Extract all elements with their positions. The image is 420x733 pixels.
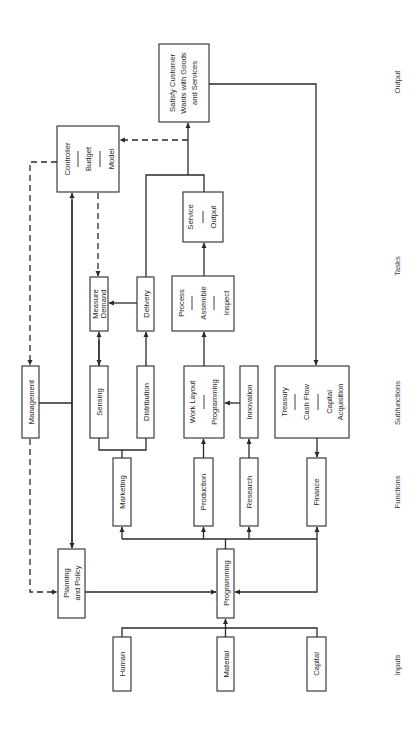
- assemble-label: Assemble: [199, 286, 208, 319]
- planning-line-2: and Policy: [73, 565, 82, 600]
- column-tasks-label: Tasks: [393, 256, 402, 276]
- column-inputs-label: Inputs: [393, 654, 402, 675]
- function-production-box: Production: [194, 458, 213, 526]
- delivery-label: Delivery: [142, 290, 151, 318]
- function-marketing-box: Marketing: [113, 458, 131, 526]
- cash-flow-label: Cash Flow: [302, 384, 311, 420]
- column-output-label: Output: [393, 70, 402, 94]
- column-labels: Output Tasks Subfunctions Functions Inpu…: [393, 70, 402, 676]
- output-satisfy-customer-box: Satisfy Customer Wants with Goods and Se…: [159, 44, 209, 122]
- planning-line-1: Planning: [62, 568, 71, 598]
- input-capital-box: Capital: [307, 637, 326, 691]
- task-process-assemble-inspect-box: Process Assemble Inspect: [172, 276, 234, 331]
- column-subfunctions-label: Subfunctions: [393, 381, 402, 425]
- process-label: Process: [177, 289, 186, 317]
- treasury-label: Treasury: [280, 387, 289, 417]
- input-human-box: Human: [113, 637, 131, 691]
- finance-label: Finance: [312, 478, 321, 505]
- subfunction-treasury-box: Treasury Cash Flow Capital Acquisition: [275, 366, 349, 438]
- subfunction-sensing-box: Sensing: [90, 366, 108, 438]
- capital-label: Capital: [312, 652, 321, 676]
- capital-acq-line-1: Capital: [325, 390, 334, 414]
- programming-label: Programming: [222, 560, 231, 606]
- service-label: Service: [186, 204, 195, 229]
- management-label: Management: [27, 379, 36, 424]
- management-box: Management: [22, 366, 39, 438]
- function-finance-box: Finance: [307, 458, 326, 526]
- output-line-3: and Services: [190, 61, 199, 105]
- sensing-label: Sensing: [95, 388, 104, 415]
- input-material-box: Material: [217, 637, 234, 691]
- task-service-output-box: Service Output: [183, 192, 223, 242]
- subfunction-distribution-box: Distribution: [137, 366, 154, 438]
- demand-label: Demand: [99, 290, 108, 319]
- marketing-label: Marketing: [118, 475, 127, 508]
- output-line-1: Satisfy Customer: [168, 54, 177, 112]
- service-output-label: Output: [209, 205, 218, 229]
- model-label: Model: [107, 148, 116, 169]
- distribution-label: Distribution: [142, 383, 151, 421]
- capital-acq-line-2: Acquisition: [336, 384, 345, 421]
- subfunction-innovation-box: Innovation: [240, 366, 258, 438]
- controller-label: Controller: [63, 142, 72, 175]
- task-delivery-box: Delivery: [137, 277, 154, 331]
- research-label: Research: [245, 476, 254, 509]
- innovation-label: Innovation: [245, 384, 254, 419]
- budget-label: Budget: [84, 146, 93, 171]
- planning-policy-box: Planning and Policy: [58, 549, 85, 618]
- subfunction-work-layout-box: Work Layout Programming: [184, 366, 224, 438]
- work-programming-label: Programming: [210, 379, 219, 425]
- task-measure-demand-box: Measure Demand: [90, 277, 108, 331]
- organization-flow-diagram: Satisfy Customer Wants with Goods and Se…: [0, 0, 420, 733]
- production-label: Production: [199, 474, 208, 510]
- function-research-box: Research: [240, 458, 258, 526]
- programming-box: Programming: [217, 549, 234, 618]
- controller-budget-model-box: Controller Budget Model: [57, 126, 119, 192]
- work-layout-label: Work Layout: [188, 380, 197, 423]
- output-line-2: Wants with Goods: [179, 52, 188, 114]
- column-functions-label: Functions: [393, 475, 402, 508]
- inspect-label: Inspect: [222, 290, 231, 315]
- human-label: Human: [118, 652, 127, 676]
- material-label: Material: [222, 650, 231, 677]
